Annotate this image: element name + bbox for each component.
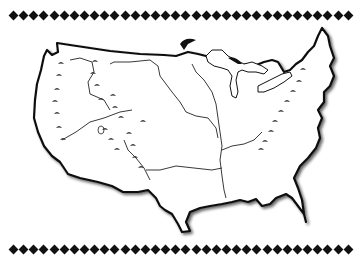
us-map: [0, 0, 361, 262]
lake-of-the-woods-mark: [180, 39, 196, 50]
